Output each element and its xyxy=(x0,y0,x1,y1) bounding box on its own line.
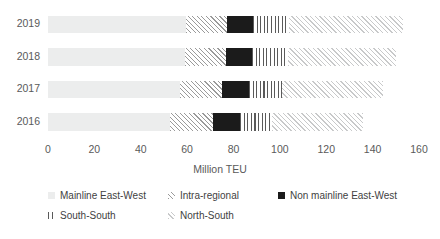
legend-label: Mainline East-West xyxy=(60,190,146,201)
x-axis-tick-40: 40 xyxy=(135,143,147,155)
stacked-bar-chart: 020406080100120140160 Million TEU Mainli… xyxy=(0,0,440,239)
bar-segment-northsouth xyxy=(282,81,383,99)
legend-swatch-nonmainline-icon xyxy=(278,192,285,199)
legend-label: South-South xyxy=(60,210,116,221)
legend-label: Non mainline East-West xyxy=(290,190,397,201)
stacked-bar-2016 xyxy=(48,113,419,131)
stacked-bar-2017 xyxy=(48,81,419,99)
legend-swatch-southsouth-icon xyxy=(48,212,55,219)
stacked-bar-2019 xyxy=(48,16,419,34)
x-axis-tick-160: 160 xyxy=(410,143,428,155)
x-axis-tick-60: 60 xyxy=(181,143,193,155)
bar-segment-nonmainline xyxy=(226,48,252,66)
bar-segment-mainline xyxy=(48,113,170,131)
legend-item-southsouth[interactable]: South-South xyxy=(48,210,116,221)
bar-segment-intra xyxy=(185,48,226,66)
x-axis-tick-0: 0 xyxy=(45,143,51,155)
x-axis-tick-80: 80 xyxy=(228,143,240,155)
bar-segment-southsouth xyxy=(240,113,272,131)
legend-item-intra[interactable]: Intra-regional xyxy=(168,190,239,201)
x-axis: 020406080100120140160 xyxy=(48,143,419,159)
chart-legend: Mainline East-WestIntra-regionalNon main… xyxy=(0,190,440,234)
bar-segment-northsouth xyxy=(272,113,363,131)
bar-segment-northsouth xyxy=(289,16,403,34)
bar-segment-nonmainline xyxy=(227,16,254,34)
legend-swatch-mainline-icon xyxy=(48,192,55,199)
bar-segment-southsouth xyxy=(249,81,282,99)
bar-segment-southsouth xyxy=(252,48,288,66)
y-axis-label-2017: 2017 xyxy=(17,82,40,94)
bar-segment-mainline xyxy=(48,16,186,34)
bar-row xyxy=(48,113,419,131)
bar-segment-intra xyxy=(170,113,213,131)
legend-swatch-intra-icon xyxy=(168,192,175,199)
bar-row xyxy=(48,48,419,66)
legend-item-nonmainline[interactable]: Non mainline East-West xyxy=(278,190,397,201)
y-axis-label-2018: 2018 xyxy=(17,50,40,62)
x-axis-tick-120: 120 xyxy=(317,143,335,155)
bar-segment-southsouth xyxy=(253,16,289,34)
legend-label: North-South xyxy=(180,210,234,221)
y-axis-label-2019: 2019 xyxy=(17,17,40,29)
x-axis-tick-140: 140 xyxy=(364,143,382,155)
bar-segment-northsouth xyxy=(288,48,396,66)
bar-row xyxy=(48,81,419,99)
bar-segment-mainline xyxy=(48,48,185,66)
legend-item-mainline[interactable]: Mainline East-West xyxy=(48,190,146,201)
x-axis-title: Million TEU xyxy=(0,163,440,175)
stacked-bar-2018 xyxy=(48,48,419,66)
legend-label: Intra-regional xyxy=(180,190,239,201)
plot-area xyxy=(48,8,419,138)
bar-segment-intra xyxy=(186,16,227,34)
bar-segment-nonmainline xyxy=(222,81,249,99)
x-axis-tick-100: 100 xyxy=(271,143,289,155)
legend-item-northsouth[interactable]: North-South xyxy=(168,210,234,221)
x-axis-tick-20: 20 xyxy=(89,143,101,155)
bar-segment-nonmainline xyxy=(213,113,240,131)
bar-row xyxy=(48,16,419,34)
legend-swatch-northsouth-icon xyxy=(168,212,175,219)
y-axis-label-2016: 2016 xyxy=(17,115,40,127)
bar-segment-intra xyxy=(180,81,222,99)
bar-segment-mainline xyxy=(48,81,180,99)
